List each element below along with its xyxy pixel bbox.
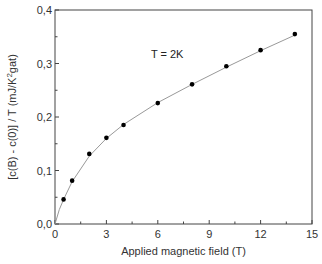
data-point bbox=[87, 152, 92, 157]
y-tick-label: 0,1 bbox=[37, 165, 52, 177]
data-point bbox=[104, 136, 109, 141]
x-tick-label: 6 bbox=[155, 228, 161, 240]
y-axis-label: [c(B) - c(0)] / T (mJ/K2gat) bbox=[5, 54, 18, 180]
x-tick-label: 0 bbox=[52, 228, 58, 240]
data-point bbox=[258, 48, 263, 53]
y-tick-label: 0,4 bbox=[37, 4, 52, 16]
data-point bbox=[224, 64, 229, 69]
y-tick-label: 0,2 bbox=[37, 111, 52, 123]
temperature-annotation: T = 2K bbox=[151, 48, 184, 60]
data-point bbox=[293, 32, 298, 37]
plot-frame bbox=[55, 10, 312, 224]
fit-curve bbox=[55, 35, 295, 224]
x-tick-label: 3 bbox=[103, 228, 109, 240]
data-point bbox=[156, 101, 161, 106]
data-point bbox=[70, 178, 75, 183]
y-axis: 0,00,10,20,30,4 bbox=[37, 4, 59, 230]
data-point bbox=[121, 123, 126, 128]
y-tick-label: 0,0 bbox=[37, 218, 52, 230]
x-axis: 03691215 bbox=[52, 220, 318, 240]
chart: 03691215 0,00,10,20,30,4 T = 2K Applied … bbox=[0, 0, 322, 264]
x-tick-label: 9 bbox=[206, 228, 212, 240]
x-tick-label: 15 bbox=[306, 228, 318, 240]
data-point bbox=[190, 82, 195, 87]
y-tick-label: 0,3 bbox=[37, 58, 52, 70]
x-tick-label: 12 bbox=[254, 228, 266, 240]
data-point bbox=[61, 197, 66, 202]
x-axis-label: Applied magnetic field (T) bbox=[121, 245, 246, 257]
